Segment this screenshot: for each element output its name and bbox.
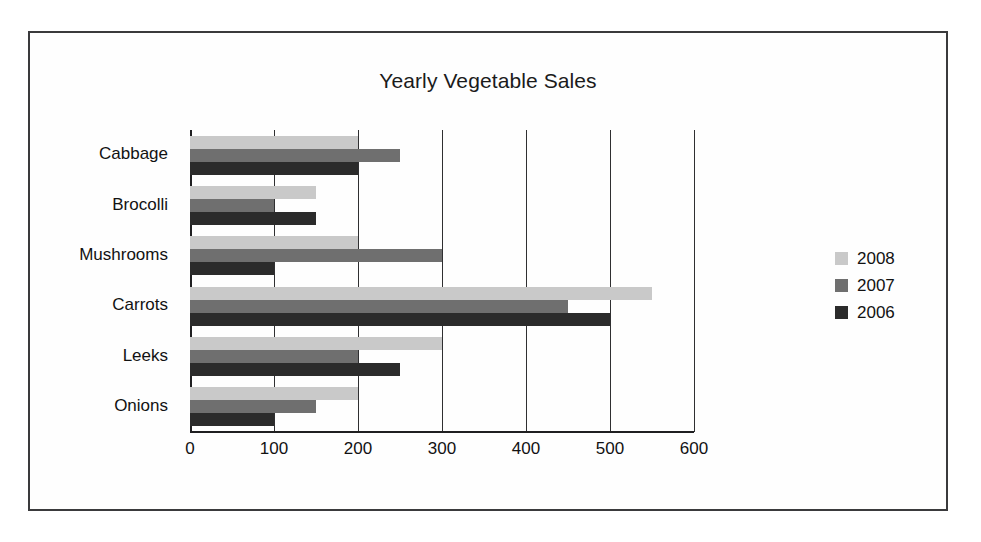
bar-leeks-2008 bbox=[190, 337, 442, 350]
y-label-carrots: Carrots bbox=[112, 295, 168, 315]
bar-onions-2008 bbox=[190, 387, 358, 400]
y-axis-category-labels: CabbageBrocolliMushroomsCarrotsLeeksOnio… bbox=[30, 130, 180, 432]
x-tick-0: 0 bbox=[185, 439, 194, 459]
chart-frame: Yearly Vegetable Sales CabbageBrocolliMu… bbox=[28, 31, 948, 511]
legend-item-2008: 2008 bbox=[835, 245, 935, 272]
bar-brocolli-2008 bbox=[190, 186, 316, 199]
bar-carrots-2008 bbox=[190, 287, 652, 300]
legend-swatch-icon-2008 bbox=[835, 252, 848, 265]
bar-group bbox=[190, 236, 694, 275]
bar-mushrooms-2007 bbox=[190, 249, 442, 262]
bar-brocolli-2007 bbox=[190, 199, 274, 212]
x-tick-400: 400 bbox=[512, 439, 540, 459]
legend-item-2006: 2006 bbox=[835, 299, 935, 326]
x-axis-tick-labels: 0100200300400500600 bbox=[190, 439, 694, 467]
bar-group bbox=[190, 287, 694, 326]
bar-group bbox=[190, 136, 694, 175]
chart-title: Yearly Vegetable Sales bbox=[30, 69, 946, 93]
bar-leeks-2006 bbox=[190, 363, 400, 376]
gridline bbox=[694, 130, 695, 432]
bar-carrots-2007 bbox=[190, 300, 568, 313]
bar-onions-2006 bbox=[190, 413, 274, 426]
y-label-leeks: Leeks bbox=[123, 346, 168, 366]
bar-mushrooms-2006 bbox=[190, 262, 274, 275]
x-tick-600: 600 bbox=[680, 439, 708, 459]
bar-onions-2007 bbox=[190, 400, 316, 413]
y-label-mushrooms: Mushrooms bbox=[79, 245, 168, 265]
bar-carrots-2006 bbox=[190, 313, 610, 326]
legend-item-2007: 2007 bbox=[835, 272, 935, 299]
legend-swatch-icon-2006 bbox=[835, 306, 848, 319]
bar-group bbox=[190, 387, 694, 426]
legend-label-2007: 2007 bbox=[857, 276, 895, 296]
bar-mushrooms-2008 bbox=[190, 236, 358, 249]
legend-label-2008: 2008 bbox=[857, 249, 895, 269]
x-tick-200: 200 bbox=[344, 439, 372, 459]
bars-layer bbox=[190, 130, 694, 432]
y-label-brocolli: Brocolli bbox=[112, 195, 168, 215]
bar-group bbox=[190, 186, 694, 225]
legend-label-2006: 2006 bbox=[857, 303, 895, 323]
legend-swatch-icon-2007 bbox=[835, 279, 848, 292]
x-tick-100: 100 bbox=[260, 439, 288, 459]
y-label-onions: Onions bbox=[114, 396, 168, 416]
plot-area bbox=[190, 130, 694, 432]
bar-cabbage-2008 bbox=[190, 136, 358, 149]
bar-brocolli-2006 bbox=[190, 212, 316, 225]
chart-legend: 200820072006 bbox=[835, 245, 935, 326]
x-axis-line bbox=[190, 431, 694, 433]
bar-cabbage-2006 bbox=[190, 162, 358, 175]
bar-cabbage-2007 bbox=[190, 149, 400, 162]
y-label-cabbage: Cabbage bbox=[99, 144, 168, 164]
x-tick-500: 500 bbox=[596, 439, 624, 459]
bar-group bbox=[190, 337, 694, 376]
x-tick-300: 300 bbox=[428, 439, 456, 459]
bar-leeks-2007 bbox=[190, 350, 358, 363]
